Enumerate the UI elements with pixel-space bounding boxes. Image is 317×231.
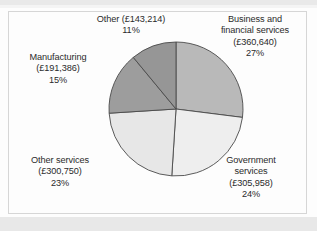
slice-label-other-services-line3: 23% <box>8 178 112 189</box>
slice-label-business-line3: (£360,640) <box>199 37 311 48</box>
slice-label-other-services-line1: Other services <box>8 155 112 166</box>
pie-slice-other-services <box>109 109 176 176</box>
slice-label-other-line2: 11% <box>79 25 183 36</box>
pie-chart-figure: Other (£143,214) 11% Business and financ… <box>0 0 317 231</box>
slice-label-business-and-financial-services: Business and financial services (£360,64… <box>199 14 311 60</box>
slice-label-government-line2: services <box>201 166 301 177</box>
slice-label-other-line1: Other (£143,214) <box>79 14 183 25</box>
slice-label-business-line1: Business and <box>199 14 311 25</box>
slice-label-manufacturing-line1: Manufacturing <box>10 52 106 63</box>
slice-label-government-line1: Government <box>201 155 301 166</box>
slice-label-other: Other (£143,214) 11% <box>79 14 183 37</box>
slice-label-manufacturing: Manufacturing (£191,386) 15% <box>10 52 106 86</box>
slice-label-government-services: Government services (£305,958) 24% <box>201 155 301 201</box>
slice-label-manufacturing-line3: 15% <box>10 75 106 86</box>
slice-label-government-line3: (£305,958) <box>201 178 301 189</box>
slice-label-other-services-line2: (£300,750) <box>8 166 112 177</box>
slice-label-business-line2: financial services <box>199 25 311 36</box>
slice-label-business-line4: 27% <box>199 48 311 59</box>
slice-label-government-line4: 24% <box>201 189 301 200</box>
slice-label-other-services: Other services (£300,750) 23% <box>8 155 112 189</box>
slice-label-manufacturing-line2: (£191,386) <box>10 63 106 74</box>
